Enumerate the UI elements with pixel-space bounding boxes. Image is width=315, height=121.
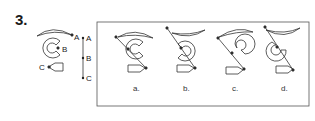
option-d-label: d.: [281, 84, 288, 93]
option-a-label: a.: [133, 84, 140, 93]
scale-label-b: B: [86, 54, 91, 63]
option-a-figure[interactable]: [115, 32, 153, 72]
point-c-dot: [48, 66, 50, 68]
option-b-figure[interactable]: [166, 27, 205, 72]
scale-line: [82, 37, 84, 79]
reference-tab-shape: [50, 63, 63, 71]
option-c-figure[interactable]: [217, 29, 255, 74]
point-a-dot: [71, 34, 73, 36]
point-b-dot: [57, 47, 59, 49]
point-a-label: A: [74, 33, 80, 42]
reference-arc: [37, 30, 72, 36]
options-frame: [97, 22, 309, 106]
option-c-label: c.: [232, 84, 238, 93]
option-d-figure[interactable]: [264, 26, 300, 73]
diagram: A B C A B C a. b.: [0, 0, 315, 121]
option-b-label: b.: [183, 84, 190, 93]
scale-label-c: C: [86, 74, 92, 83]
point-b-label: B: [62, 45, 67, 54]
point-c-label: C: [39, 63, 45, 72]
scale-label-a: A: [86, 34, 92, 43]
